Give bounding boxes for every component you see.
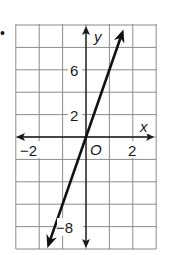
x-tick-label-neg2: −2 xyxy=(20,142,37,159)
y-tick-label-2: 2 xyxy=(70,107,78,124)
y-tick-label-neg8: −8 xyxy=(56,219,73,236)
coordinate-plane-graph: • y x O 6 2 −8 −2 2 xyxy=(0,0,170,255)
problem-bullet: • xyxy=(0,25,5,41)
origin-label: O xyxy=(90,141,102,158)
x-axis-label: x xyxy=(139,118,148,135)
y-tick-label-6: 6 xyxy=(70,62,78,79)
x-tick-label-2: 2 xyxy=(128,142,136,159)
